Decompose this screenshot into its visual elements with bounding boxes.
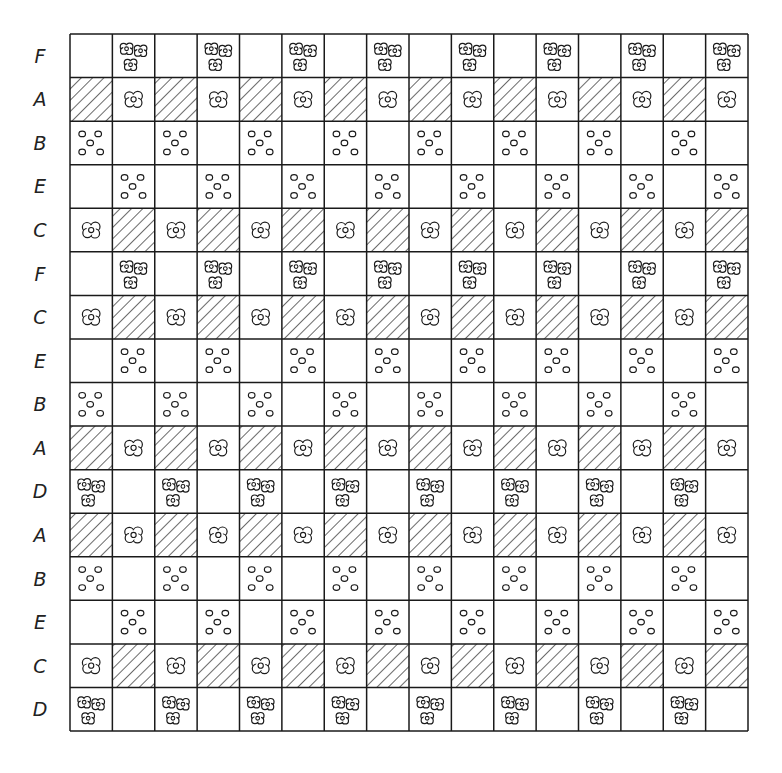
cell-dots [79,131,104,155]
cell-cluster [713,43,740,70]
cell-flower [549,91,567,107]
cell-dots [248,567,273,591]
cell-dots [121,610,146,634]
cell-dots [333,567,358,591]
cell-cluster [374,43,401,70]
cell-cluster [205,261,232,288]
cell-flower [82,658,100,674]
cell-flower [421,222,439,238]
cell-dots [630,610,655,634]
cell-dots [206,610,231,634]
cell-dots [630,175,655,199]
cell-dots [672,567,697,591]
cell-flower [464,440,482,456]
cell-cluster [586,479,613,506]
cell-hatch [579,513,621,557]
cell-hatch [621,295,663,339]
cell-hatch [494,78,536,122]
cell-flower [294,91,312,107]
cell-flower [337,222,355,238]
cell-dots [630,349,655,373]
cell-flower [252,309,270,325]
cell-hatch [197,644,239,688]
cell-flower [210,440,228,456]
cell-dots [333,392,358,416]
cell-hatch [579,78,621,122]
cell-dots [291,610,316,634]
cell-dots [79,392,104,416]
cell-hatch [621,208,663,252]
cell-dots [376,610,401,634]
pattern-grid [0,0,782,773]
cell-hatch [155,78,197,122]
cell-flower [421,658,439,674]
cell-hatch [367,644,409,688]
cell-cluster [417,696,444,723]
cell-dots [206,349,231,373]
cell-flower [252,222,270,238]
cell-dots [248,392,273,416]
cell-cluster [290,261,317,288]
cell-hatch [451,208,493,252]
cell-dots [121,349,146,373]
cell-cluster [629,261,656,288]
cell-flower [294,527,312,543]
cell-hatch [621,644,663,688]
cell-dots [587,392,612,416]
cell-dots [460,610,485,634]
cell-hatch [324,513,366,557]
cell-dots [545,175,570,199]
cell-flower [591,222,609,238]
cell-hatch [324,426,366,470]
cell-hatch [112,644,154,688]
cell-cluster [502,479,529,506]
cell-dots [545,349,570,373]
cell-hatch [70,426,112,470]
cell-cluster [374,261,401,288]
cell-hatch [451,644,493,688]
cell-flower [82,309,100,325]
cell-flower [125,527,143,543]
cell-hatch [451,295,493,339]
cell-hatch [494,513,536,557]
cell-flower [167,658,185,674]
cell-dots [587,131,612,155]
grid-lines [70,34,748,731]
cell-dots [333,131,358,155]
cell-dots [79,567,104,591]
cell-flower [379,91,397,107]
cell-hatch [536,644,578,688]
cell-flower [506,222,524,238]
cell-flower [167,222,185,238]
cell-hatch [409,426,451,470]
cell-dots [291,175,316,199]
cell-cluster [247,696,274,723]
cell-hatch [70,513,112,557]
cell-flower [676,222,694,238]
cell-cluster [713,261,740,288]
cell-flower [718,527,736,543]
cell-cluster [332,479,359,506]
cell-cluster [120,43,147,70]
cell-flower [337,658,355,674]
cell-dots [121,175,146,199]
cell-flower [506,658,524,674]
cell-dots [291,349,316,373]
cell-cluster [332,696,359,723]
cell-dots [715,349,740,373]
cell-cluster [290,43,317,70]
cell-dots [503,131,528,155]
cell-flower [82,222,100,238]
cell-dots [164,567,189,591]
cell-flower [125,440,143,456]
cell-hatch [367,295,409,339]
cell-dots [418,392,443,416]
cell-flower [549,440,567,456]
cell-dots [376,349,401,373]
cell-cluster [671,479,698,506]
cell-flower [379,527,397,543]
cell-flower [337,309,355,325]
cell-flower [294,440,312,456]
cell-hatch [112,208,154,252]
cell-hatch [367,208,409,252]
